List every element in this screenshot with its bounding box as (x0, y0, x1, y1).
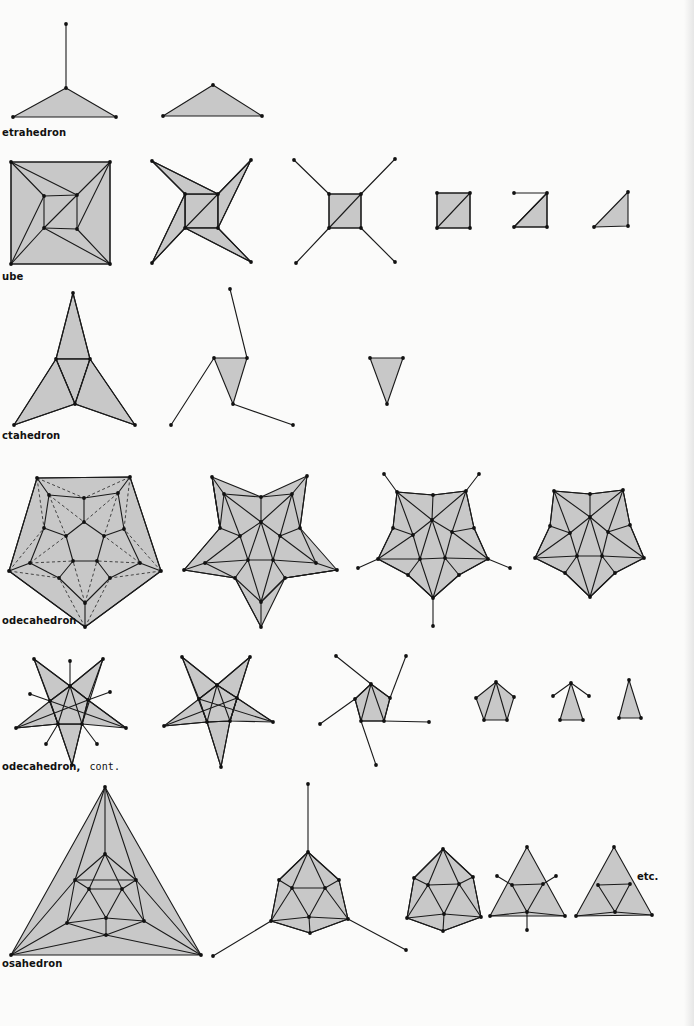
vertex-dot (600, 554, 604, 558)
figure-cube-3 (292, 157, 397, 265)
vertex-dot (541, 882, 545, 886)
vertex-dot (525, 928, 529, 932)
vertex-dot (393, 260, 397, 264)
vertex-dot (441, 847, 445, 851)
vertex-dot (471, 875, 475, 879)
vertex-dot (290, 492, 294, 496)
vertex-dot (486, 557, 490, 561)
vertex-dot (376, 557, 380, 561)
vertex-dot (64, 534, 68, 538)
edge (384, 721, 429, 722)
label-dodecahedron: odecahedron (2, 615, 77, 626)
vertex-dot (124, 726, 128, 730)
vertex-dot (133, 423, 137, 427)
vertex-dot (525, 845, 529, 849)
edge (230, 289, 247, 358)
vertex-dot (259, 495, 263, 499)
vertex-dot (238, 534, 242, 538)
vertex-dot (406, 573, 410, 577)
edge (213, 921, 271, 956)
vertex-dot (108, 160, 112, 164)
vertex-dot (245, 356, 249, 360)
vertex-dot (592, 225, 596, 229)
vertex-dot (335, 568, 339, 572)
vertex-dot (28, 692, 32, 696)
vertex-dot (525, 910, 529, 914)
figure-icosa-2 (211, 782, 408, 958)
label-text: etrahedron (2, 127, 66, 138)
vertex-dot (435, 226, 439, 230)
edge (466, 474, 479, 491)
vertex-dot (468, 191, 472, 195)
vertex-dot (197, 697, 201, 701)
vertex-dot (479, 915, 483, 919)
vertex-dot (222, 492, 226, 496)
figure-icosa-1 (9, 785, 203, 957)
label-cube: ube (2, 271, 23, 282)
vertex-dot (418, 557, 422, 561)
vertex-dot (558, 718, 562, 722)
vertex-dot (563, 571, 567, 575)
vertex-dot (359, 719, 363, 723)
vertex-dot (71, 291, 75, 295)
edge (390, 656, 406, 698)
vertex-dot (12, 423, 16, 427)
vertex-dot (228, 719, 232, 723)
vertex-dot (306, 782, 310, 786)
vertex-dot (323, 886, 327, 890)
edge (233, 404, 293, 425)
figure-dodeca-2 (182, 474, 339, 629)
figure-icosa-4 (488, 845, 567, 932)
vertex-dot (271, 558, 275, 562)
vertex-dot (613, 910, 617, 914)
label-text: ctahedron (2, 430, 60, 441)
vertex-dot (369, 682, 373, 686)
vertex-dot (401, 356, 405, 360)
edge (171, 358, 214, 425)
vertex-dot (103, 785, 107, 789)
vertex-dot (65, 921, 69, 925)
vertex-dot (82, 520, 86, 524)
vertex-dot (353, 697, 357, 701)
vertex-dot (219, 765, 223, 769)
vertex-dot (56, 722, 60, 726)
vertex-dot (639, 716, 643, 720)
vertex-dot (249, 158, 253, 162)
vertex-dot (294, 261, 298, 265)
vertex-dot (259, 600, 263, 604)
vertex-dot (228, 287, 232, 291)
vertex-dot (248, 655, 252, 659)
label-tetrahedron: etrahedron (2, 127, 66, 138)
vertex-dot (292, 158, 296, 162)
vertex-dot (298, 526, 302, 530)
vertex-dot (431, 596, 435, 600)
vertex-dot (42, 226, 46, 230)
vertex-dot (575, 554, 579, 558)
vertex-dot (233, 576, 237, 580)
vertex-dot (512, 225, 516, 229)
vertex-dot (283, 576, 287, 580)
figure-icosa-3 (405, 847, 483, 933)
vertex-dot (337, 878, 341, 882)
figure-dodeca-5 (14, 657, 128, 767)
vertex-dot (494, 680, 498, 684)
vertex-dot (159, 569, 163, 573)
vertex-dot (431, 624, 435, 628)
figure-tetra-1 (11, 22, 118, 119)
vertex-dot (533, 556, 537, 560)
vertex-dot (95, 742, 99, 746)
vertex-dot (260, 114, 264, 118)
vertex-dot (306, 850, 310, 854)
face (163, 85, 262, 116)
face (214, 358, 247, 404)
vertex-dot (9, 262, 13, 266)
label-text: odecahedron, (2, 761, 80, 772)
vertex-dot (430, 518, 434, 522)
vertex-dot (101, 657, 105, 661)
vertex-dot (47, 493, 51, 497)
vertex-dot (11, 115, 15, 119)
vertex-dot (120, 887, 124, 891)
vertex-dot (512, 191, 516, 195)
vertex-dot (104, 916, 108, 920)
vertex-dot (405, 916, 409, 920)
